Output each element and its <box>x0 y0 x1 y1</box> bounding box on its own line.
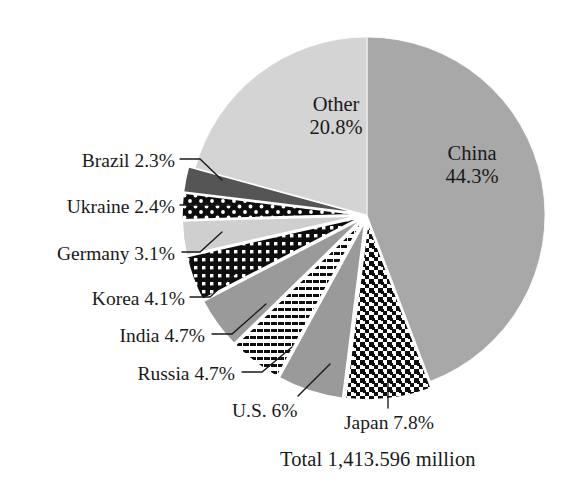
slice-label-china-name: China <box>412 142 532 165</box>
slice-label-china-percent: 44.3% <box>412 165 532 188</box>
slice-label-germany: Germany 3.1% <box>0 243 175 265</box>
slice-label-china: China 44.3% <box>412 142 532 188</box>
slice-label-other-percent: 20.8% <box>276 116 396 139</box>
total-caption: Total 1,413.596 million <box>280 448 476 471</box>
slice-label-korea: Korea 4.1% <box>0 288 185 310</box>
slice-label-japan: Japan 7.8% <box>344 412 434 434</box>
slice-label-russia: Russia 4.7% <box>0 363 235 385</box>
slice-label-ukraine: Ukraine 2.4% <box>0 196 175 218</box>
pie-slices-group <box>182 37 545 400</box>
slice-label-us: U.S. 6% <box>232 400 298 422</box>
slice-label-brazil: Brazil 2.3% <box>0 150 175 172</box>
pie-chart-figure: Other 20.8% China 44.3% Brazil 2.3% Ukra… <box>0 0 569 493</box>
slice-label-other-name: Other <box>276 93 396 116</box>
slice-label-other: Other 20.8% <box>276 93 396 139</box>
slice-label-india: India 4.7% <box>0 325 205 347</box>
